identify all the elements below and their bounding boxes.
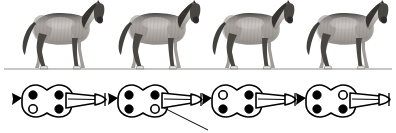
tail-midline xyxy=(258,99,285,100)
dot-hind-left-hollow xyxy=(29,105,37,113)
dot-hind-left-filled xyxy=(125,105,133,113)
nose-marker xyxy=(108,93,118,105)
dot-fore-left-filled xyxy=(29,91,37,99)
tail-shaft xyxy=(66,93,96,108)
dot-hind-right-filled xyxy=(245,105,253,113)
dot-fore-right-filled xyxy=(55,91,63,99)
figure-root xyxy=(0,0,396,133)
dot-hind-left-filled xyxy=(219,105,227,113)
schematic-frame-3 xyxy=(198,72,302,133)
schematic-frame-2 xyxy=(104,72,208,133)
dot-fore-right-filled xyxy=(245,91,253,99)
dot-fore-left-hollow xyxy=(219,91,227,99)
tail-shaft xyxy=(256,93,286,108)
footfall-schematic-sequence xyxy=(0,72,396,133)
nose-marker xyxy=(202,93,212,105)
dot-fore-right-hollow xyxy=(339,91,347,99)
schematic-frame-1 xyxy=(8,72,112,133)
tail-midline xyxy=(164,99,191,100)
dot-hind-right-filled xyxy=(55,105,63,113)
dot-hind-right-hollow xyxy=(151,105,159,113)
dot-fore-left-filled xyxy=(313,91,321,99)
tail-shaft xyxy=(162,93,192,108)
schematic-frame-4 xyxy=(292,72,396,133)
tail-shaft xyxy=(350,93,380,108)
nose-marker xyxy=(12,93,22,105)
tail-midline xyxy=(68,99,95,100)
nose-marker xyxy=(296,93,306,105)
dot-hind-left-filled xyxy=(313,105,321,113)
dot-fore-right-filled xyxy=(151,91,159,99)
dot-hind-right-filled xyxy=(339,105,347,113)
dot-fore-left-filled xyxy=(125,91,133,99)
tail-midline xyxy=(352,99,379,100)
